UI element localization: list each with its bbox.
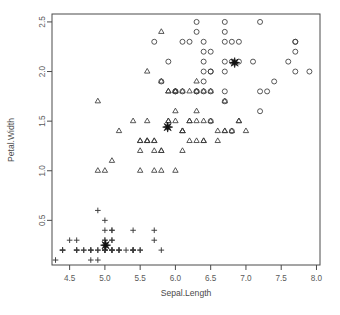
point-circle (222, 89, 227, 94)
y-axis-ticks: 0.51.01.52.02.5 (38, 16, 52, 226)
y-tick-label: 2.0 (38, 65, 47, 77)
point-triangle (145, 118, 150, 123)
point-triangle (173, 118, 178, 123)
point-triangle (152, 168, 157, 173)
point-circle (194, 29, 199, 34)
point-circle (222, 19, 227, 24)
point-circle (201, 79, 206, 84)
point-circle (258, 109, 263, 114)
point-circle (201, 39, 206, 44)
point-triangle (159, 29, 164, 34)
point-circle (201, 49, 206, 54)
point-circle (258, 19, 263, 24)
point-circle (222, 59, 227, 64)
point-triangle (166, 88, 171, 93)
point-circle (222, 69, 227, 74)
point-triangle (194, 138, 199, 143)
scatter-plot-figure: 4.55.05.56.06.57.07.58.0 0.51.01.52.02.5… (0, 0, 340, 315)
point-triangle (173, 108, 178, 113)
point-circle (265, 89, 270, 94)
y-tick-label: 1.0 (38, 165, 47, 177)
point-triangle (215, 138, 220, 143)
point-triangle (109, 158, 114, 163)
point-triangle (194, 118, 199, 123)
point-triangle (130, 118, 135, 123)
centroid-cluster-plus (101, 240, 111, 250)
point-triangle (173, 168, 178, 173)
data-points-layer (53, 19, 312, 262)
point-triangle (187, 138, 192, 143)
point-circle (166, 59, 171, 64)
point-triangle (102, 168, 107, 173)
centroid-markers-layer (101, 58, 240, 251)
point-triangle (201, 118, 206, 123)
point-triangle (145, 68, 150, 73)
centroid-cluster-triangle (163, 122, 173, 132)
point-triangle (95, 168, 100, 173)
point-triangle (137, 168, 142, 173)
y-tick-label: 1.5 (38, 115, 47, 127)
x-tick-label: 7.0 (240, 274, 252, 283)
point-triangle (159, 148, 164, 153)
x-axis-ticks: 4.55.05.56.06.57.07.58.0 (64, 265, 323, 283)
series-cluster-triangle (95, 29, 248, 173)
y-axis-title: Petal.Width (6, 118, 16, 162)
point-circle (258, 89, 263, 94)
point-circle (152, 39, 157, 44)
y-tick-label: 2.5 (38, 16, 47, 28)
point-circle (201, 69, 206, 74)
point-circle (222, 39, 227, 44)
point-circle (236, 39, 241, 44)
y-tick-label: 0.5 (38, 214, 47, 226)
point-triangle (137, 148, 142, 153)
point-circle (272, 79, 277, 84)
point-triangle (222, 128, 227, 133)
point-circle (180, 39, 185, 44)
point-circle (187, 39, 192, 44)
point-circle (201, 59, 206, 64)
point-triangle (180, 128, 185, 133)
plot-frame (52, 14, 320, 265)
point-triangle (116, 128, 121, 133)
x-tick-label: 4.5 (64, 274, 76, 283)
plot-canvas: 4.55.05.56.06.57.07.58.0 0.51.01.52.02.5… (0, 0, 340, 315)
point-triangle (152, 148, 157, 153)
point-circle (208, 49, 213, 54)
point-triangle (180, 148, 185, 153)
point-triangle (243, 128, 248, 133)
point-circle (307, 69, 312, 74)
point-triangle (137, 138, 142, 143)
point-triangle (215, 128, 220, 133)
x-tick-label: 5.5 (134, 274, 146, 283)
point-triangle (145, 138, 150, 143)
plot-box-border (52, 14, 320, 265)
series-cluster-plus (53, 208, 164, 263)
x-tick-label: 7.5 (276, 274, 288, 283)
point-triangle (95, 98, 100, 103)
point-triangle (194, 78, 199, 83)
point-circle (286, 59, 291, 64)
point-circle (194, 19, 199, 24)
point-triangle (166, 118, 171, 123)
x-axis-title: Sepal.Length (161, 288, 212, 298)
point-triangle (187, 118, 192, 123)
point-circle (208, 69, 213, 74)
point-circle (293, 69, 298, 74)
point-circle (251, 59, 256, 64)
point-circle (222, 29, 227, 34)
x-tick-label: 8.0 (311, 274, 323, 283)
point-triangle (194, 108, 199, 113)
point-triangle (159, 168, 164, 173)
point-circle (293, 49, 298, 54)
x-tick-label: 6.5 (205, 274, 217, 283)
point-triangle (152, 138, 157, 143)
point-triangle (201, 138, 206, 143)
centroid-cluster-circle (230, 58, 240, 68)
series-cluster-circle (152, 19, 312, 133)
x-tick-label: 6.0 (170, 274, 182, 283)
x-tick-label: 5.0 (99, 274, 111, 283)
point-triangle (187, 88, 192, 93)
point-circle (229, 39, 234, 44)
point-circle (293, 39, 298, 44)
point-triangle (236, 118, 241, 123)
